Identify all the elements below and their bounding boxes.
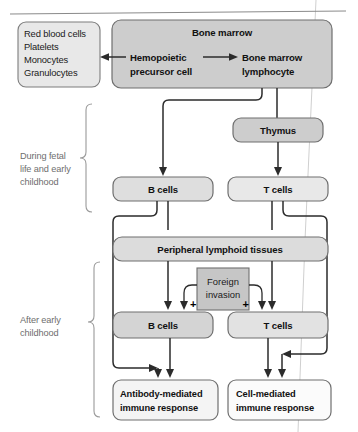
arrowhead-t-outer-loop — [282, 350, 291, 358]
bm-lymphocyte-line-1: Bone marrow — [242, 52, 303, 63]
blood-cells-line-1: Red blood cells — [24, 28, 86, 39]
immunology-flow-diagram: Red blood cells Platelets Monocytes Gran… — [0, 0, 358, 432]
plus-sign-right: + — [243, 298, 249, 310]
top-horizontal-rule — [10, 11, 346, 14]
antibody-response-line-2: immune response — [120, 403, 198, 413]
foreign-invasion-line-2: invasion — [206, 289, 240, 300]
b-cells-early-label: B cells — [148, 184, 178, 195]
arrowhead-foreign-right — [258, 301, 266, 310]
arrowhead-t-late-main — [268, 301, 276, 310]
blood-cells-line-3: Monocytes — [24, 54, 68, 65]
arrowhead-t-cells-early — [274, 167, 282, 176]
blood-cells-line-2: Platelets — [24, 41, 59, 52]
foreign-invasion-box: Foreign invasion — [197, 268, 249, 310]
t-cells-early-box: T cells — [228, 177, 328, 201]
arrowhead-b-late-main — [164, 301, 172, 310]
t-cells-late-box: T cells — [228, 312, 328, 338]
antibody-response-line-1: Antibody-mediated — [120, 389, 203, 399]
plus-sign-left: + — [190, 298, 196, 310]
connector-foreign-to-t-cells — [249, 285, 262, 302]
fetal-label-line-3: childhood — [20, 177, 58, 187]
fetal-label-line-1: During fetal — [20, 151, 66, 161]
bone-marrow-title: Bone marrow — [192, 27, 253, 38]
blood-cells-line-4: Granulocytes — [24, 67, 78, 78]
cell-response-line-2: immune response — [236, 403, 314, 413]
diagram-canvas: Red blood cells Platelets Monocytes Gran… — [0, 0, 358, 432]
connector-b-early-outer-loop — [113, 201, 157, 368]
arrowhead-b-cells-early — [159, 167, 167, 176]
brace-after-childhood — [88, 262, 100, 417]
t-cells-early-label: T cells — [263, 184, 292, 195]
arrowhead-foreign-left — [180, 301, 188, 310]
arrowhead-cell-main — [264, 369, 272, 378]
antibody-response-box: Antibody-mediated immune response — [113, 380, 218, 420]
b-cells-late-box: B cells — [113, 312, 213, 338]
b-cells-late-label: B cells — [148, 320, 178, 331]
thymus-label: Thymus — [260, 125, 296, 136]
after-label-line-1: After early — [20, 315, 61, 325]
cell-response-line-1: Cell-mediated — [236, 389, 296, 399]
after-label-line-2: childhood — [20, 328, 58, 338]
brace-fetal-period — [80, 104, 92, 212]
peripheral-label: Peripheral lymphoid tissues — [157, 244, 282, 255]
bm-lymphocyte-line-2: lymphocyte — [242, 66, 294, 77]
bone-marrow-box: Bone marrow Hemopoietic precursor cell B… — [112, 20, 332, 88]
hemopoietic-line-2: precursor cell — [130, 66, 192, 77]
arrowhead-antibody-main — [166, 369, 174, 378]
peripheral-lymphoid-tissues-box: Peripheral lymphoid tissues — [113, 237, 328, 261]
hemopoietic-line-1: Hemopoietic — [130, 52, 187, 63]
blood-cells-box: Red blood cells Platelets Monocytes Gran… — [18, 22, 100, 87]
fetal-label-line-2: life and early — [20, 164, 71, 174]
cell-response-box: Cell-mediated immune response — [228, 380, 331, 420]
foreign-invasion-line-1: Foreign — [207, 276, 239, 287]
b-cells-early-box: B cells — [113, 177, 213, 201]
t-cells-late-label: T cells — [263, 320, 292, 331]
arrowhead-cell-loop — [278, 369, 286, 378]
thymus-box: Thymus — [233, 118, 323, 142]
